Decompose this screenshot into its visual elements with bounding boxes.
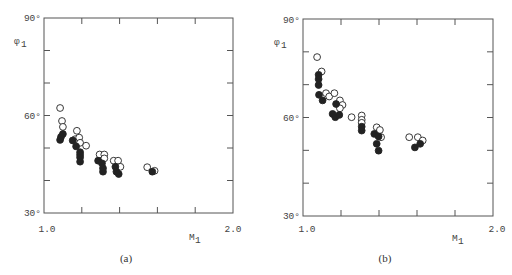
filled-circle-marker <box>358 127 365 134</box>
svg-text:1: 1 <box>458 236 464 247</box>
svg-text:φ: φ <box>14 36 20 47</box>
svg-text:1: 1 <box>21 39 27 50</box>
x-axis-title: M 1 <box>189 232 201 246</box>
filled-circle-marker <box>417 140 424 147</box>
open-circle-marker <box>331 90 338 97</box>
y-tick-90: 90° <box>24 13 41 24</box>
y-tick-30: 30° <box>283 211 300 222</box>
x-axis-title: M 1 <box>452 233 464 247</box>
filled-circle-marker <box>115 171 122 178</box>
open-circle-marker <box>60 124 67 131</box>
filled-circle-marker <box>336 112 343 119</box>
open-circle-marker <box>74 127 81 134</box>
panel-label-b: (b) <box>379 252 392 265</box>
open-circle-marker <box>57 105 64 112</box>
filled-circle-marker <box>319 97 326 104</box>
filled-circle-marker <box>315 82 322 89</box>
filled-circle-marker <box>375 133 382 140</box>
panel-label-a: (a) <box>120 252 133 265</box>
scatter-panel-b: 90° 60° 30° 1.0 2.0 φ 1 M 1 (b) <box>274 15 506 265</box>
scatter-panel-a: 90° 60° 30° 1.0 2.0 φ 1 M 1 (a) <box>14 13 242 265</box>
x-tick-2-0: 2.0 <box>488 224 505 235</box>
x-tick-1-0: 1.0 <box>298 224 315 235</box>
data-points <box>57 105 158 178</box>
open-circle-marker <box>314 54 321 61</box>
y-axis-title: φ 1 <box>274 37 287 51</box>
x-tick-2-0: 2.0 <box>224 224 241 235</box>
open-circle-marker <box>348 114 355 121</box>
open-circle-marker <box>83 142 90 149</box>
filled-circle-marker <box>57 137 64 144</box>
filled-circle-marker <box>100 168 107 175</box>
svg-text:φ: φ <box>274 37 280 48</box>
y-tick-30: 30° <box>24 208 41 219</box>
plot-frame <box>44 18 233 213</box>
filled-circle-marker <box>149 168 156 175</box>
y-axis-title: φ 1 <box>14 36 27 50</box>
filled-circle-marker <box>333 101 340 108</box>
filled-circle-marker <box>373 140 380 147</box>
data-points <box>314 54 426 154</box>
open-circle-marker <box>406 134 413 141</box>
filled-circle-marker <box>77 158 84 165</box>
axis-ticks <box>44 18 233 213</box>
filled-circle-marker <box>375 147 382 154</box>
x-tick-1-0: 1.0 <box>38 224 55 235</box>
y-tick-60: 60° <box>24 111 41 122</box>
y-tick-90: 90° <box>283 15 300 26</box>
figure: 90° 60° 30° 1.0 2.0 φ 1 M 1 (a) 90° 60° … <box>0 0 512 275</box>
svg-text:1: 1 <box>281 40 287 51</box>
y-tick-60: 60° <box>283 113 300 124</box>
svg-text:1: 1 <box>195 235 201 246</box>
